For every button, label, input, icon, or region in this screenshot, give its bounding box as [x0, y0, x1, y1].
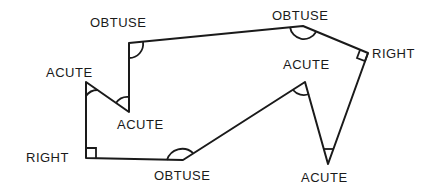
label-obtuse-3: OBTUSE	[154, 168, 210, 183]
angle-mark-obtuse-1	[129, 42, 143, 58]
label-acute-4: ACUTE	[46, 65, 93, 80]
label-right-2: RIGHT	[26, 150, 69, 165]
label-obtuse-1: OBTUSE	[90, 15, 146, 30]
angle-mark-acute-4	[116, 97, 129, 103]
label-acute-3: ACUTE	[117, 117, 164, 132]
angle-mark-right-2	[86, 148, 96, 158]
label-acute-2: ACUTE	[283, 57, 330, 72]
angle-mark-acute-3	[86, 90, 98, 96]
label-acute-1: ACUTE	[301, 170, 348, 185]
label-right-1: RIGHT	[372, 46, 415, 61]
polygon-outline	[86, 26, 368, 164]
polygon-diagram: OBTUSE OBTUSE RIGHT ACUTE ACUTE ACUTE OB…	[0, 0, 446, 189]
label-obtuse-2: OBTUSE	[272, 8, 328, 23]
angle-mark-obtuse-3	[167, 149, 193, 160]
